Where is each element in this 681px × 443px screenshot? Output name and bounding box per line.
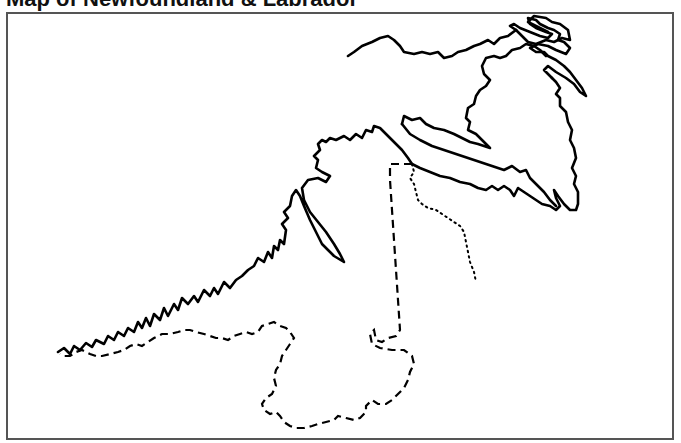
quebec-labrador-boundary xyxy=(60,164,414,428)
lake-melville-coastline xyxy=(510,18,586,96)
inland-boundary-dotted xyxy=(410,164,476,282)
labrador-coastline xyxy=(58,126,412,354)
large-peninsula-coastline xyxy=(402,44,546,148)
map-canvas xyxy=(0,0,681,443)
labrador-coastline-east xyxy=(412,78,578,210)
north-labrador-coastline xyxy=(348,30,516,58)
